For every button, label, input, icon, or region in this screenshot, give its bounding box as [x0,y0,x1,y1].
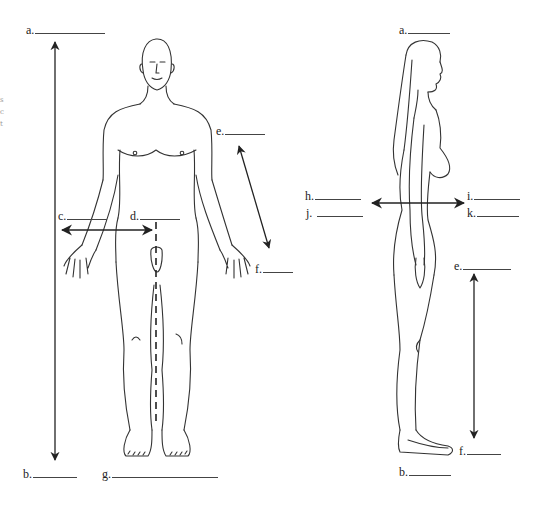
label-f-female: f. [459,445,501,457]
label-k-female: k. [467,207,519,219]
answer-blank[interactable] [263,263,293,273]
label-letter: a. [399,23,407,37]
label-letter: e. [454,259,462,273]
label-letter: b. [399,465,408,479]
answer-blank[interactable] [315,190,361,200]
answer-blank[interactable] [140,210,180,220]
answer-blank[interactable] [408,24,450,34]
answer-blank[interactable] [463,260,511,270]
answer-blank[interactable] [474,190,520,200]
answer-blank[interactable] [409,466,451,476]
answer-blank[interactable] [225,125,265,135]
label-letter: k. [467,206,476,220]
label-letter: h. [305,189,314,203]
label-letter: i. [467,189,473,203]
label-letter: b. [23,467,32,481]
label-letter: c. [58,209,66,223]
answer-blank[interactable] [35,24,105,34]
label-g-male: g. [102,468,218,480]
label-e-male: e. [216,125,265,137]
label-i-female: i. [467,190,520,202]
answer-blank[interactable] [67,210,107,220]
label-a-female: a. [399,24,450,36]
label-b-female: b. [399,466,451,478]
answer-blank[interactable] [317,207,363,217]
label-letter: a. [26,23,34,37]
anatomy-diagram: s c t [0,0,545,505]
label-c-male: c. [58,210,107,222]
proximal-distal-arrow [239,146,269,248]
label-a-male: a. [26,24,105,36]
figure-drawing [0,0,545,505]
answer-blank[interactable] [33,468,77,478]
label-d-male: d. [130,210,180,222]
label-letter: j. [306,206,312,220]
label-b-male: b. [23,468,77,480]
label-letter: g. [102,467,111,481]
label-letter: f. [255,262,262,276]
label-letter: f. [459,444,466,458]
male-figure [64,39,250,456]
answer-blank[interactable] [467,445,501,455]
label-letter: d. [130,209,139,223]
label-h-female: h. [305,190,361,202]
answer-blank[interactable] [112,468,218,478]
label-f-male: f. [255,263,293,275]
label-j-female: j. [306,207,363,219]
answer-blank[interactable] [477,207,519,217]
label-e-female: e. [454,260,511,272]
female-figure [393,41,452,455]
label-letter: e. [216,124,224,138]
